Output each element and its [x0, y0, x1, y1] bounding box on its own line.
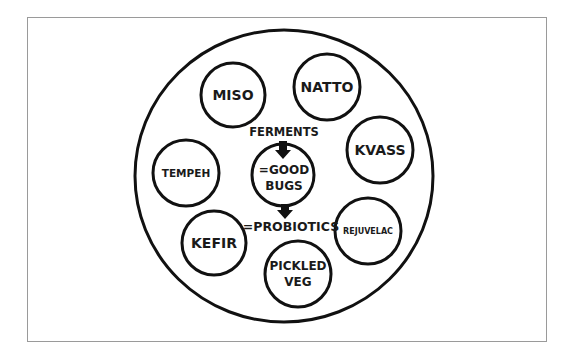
item-label: TEMPEH [162, 167, 210, 179]
ferments-diagram: MISONATTOKVASSREJUVELACPICKLEDVEGKEFIRTE… [0, 0, 572, 359]
ferment-item-pickled-veg: PICKLEDVEG [265, 241, 331, 307]
ferment-item-miso: MISO [201, 63, 265, 127]
item-label: PICKLED [269, 259, 326, 273]
good-bugs-line-1: =GOOD [259, 163, 309, 177]
item-circle [265, 241, 331, 307]
item-label: KEFIR [191, 235, 237, 251]
ferment-item-kefir: KEFIR [182, 211, 246, 275]
probiotics-label: =PROBIOTICS [243, 219, 339, 234]
item-label: VEG [284, 275, 311, 289]
ferments-label: FERMENTS [249, 125, 319, 139]
ferment-item-natto: NATTO [294, 54, 360, 120]
item-label: NATTO [301, 79, 354, 95]
item-label: REJUVELAC [343, 227, 393, 236]
ferment-item-kvass: KVASS [347, 117, 413, 183]
good-bugs-line-2: BUGS [265, 179, 302, 193]
item-label: MISO [212, 87, 253, 103]
ferment-item-tempeh: TEMPEH [153, 140, 219, 206]
ferment-item-rejuvelac: REJUVELAC [335, 198, 401, 264]
item-label: KVASS [354, 142, 405, 158]
